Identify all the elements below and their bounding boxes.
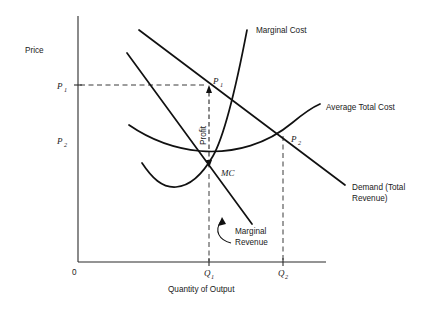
label-average-total-cost: Average Total Cost [326,103,396,112]
label-demand-line2: Revenue) [352,194,388,203]
tick-label-p2-subscript: 2 [64,141,67,148]
marginal-revenue-curve [127,53,252,224]
chart-svg: Price 0 Quantity of Output P 1 P 2 Q 1 Q… [0,0,431,319]
label-marginal-revenue-line2: Revenue [235,238,268,247]
tick-label-q2-subscript: 2 [285,273,288,280]
point-label-mc: MC [220,168,235,178]
tick-label-q1: Q [204,268,211,278]
tick-label-p1-subscript: 1 [64,86,67,93]
tick-label-q2: Q [278,268,285,278]
curve-labels: Marginal Cost Average Total Cost Demand … [235,26,405,247]
price-tick-labels: P 1 P 2 [56,81,67,148]
point-label-p1-subscript: 1 [220,81,223,88]
mr-callout-arrowhead [218,217,226,226]
point-label-p2: P [290,134,297,144]
tick-label-p2: P [56,136,63,146]
tick-label-q1-subscript: 1 [211,273,214,280]
point-label-p2-subscript: 2 [298,139,301,146]
y-axis-label: Price [25,46,44,55]
label-marginal-revenue-line1: Marginal [235,227,267,236]
annotation-profit: Profit [199,125,208,145]
tick-label-p1: P [56,81,63,91]
quantity-tick-labels: Q 1 Q 2 [204,268,288,280]
origin-label: 0 [72,268,77,277]
marginal-revenue-callout-group [218,217,231,243]
curves-group [127,30,345,224]
x-axis-label: Quantity of Output [168,285,235,294]
profit-arrow-head-up [206,85,212,93]
label-demand-line1: Demand (Total [352,183,405,192]
label-marginal-cost: Marginal Cost [256,26,307,35]
point-label-p1: P [212,76,219,86]
marginal-cost-curve [142,30,247,187]
economics-diagram: Price 0 Quantity of Output P 1 P 2 Q 1 Q… [0,0,431,319]
